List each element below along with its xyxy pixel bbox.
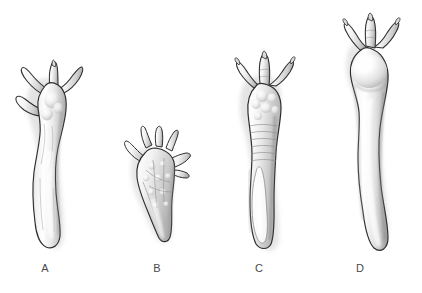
specimen-label-b: B — [145, 262, 169, 275]
specimen-d-head-highlight — [355, 56, 373, 72]
specimen-label-a: A — [33, 262, 57, 275]
specimen-a-pad-3 — [54, 103, 63, 114]
specimen-d-digit-central — [365, 16, 375, 48]
specimen-a-pad-2 — [41, 108, 53, 121]
specimen-c-digit-central — [259, 54, 269, 86]
specimen-c-digit-central-claw — [262, 51, 267, 59]
specimen-label-c: C — [247, 262, 271, 275]
specimen-illustration-canvas — [0, 0, 422, 293]
specimen-label-d: D — [348, 262, 372, 275]
figure-container: A B C D — [0, 0, 422, 293]
specimen-d-digit-central-claw — [368, 13, 373, 21]
specimen-b-digit-3 — [155, 126, 162, 147]
